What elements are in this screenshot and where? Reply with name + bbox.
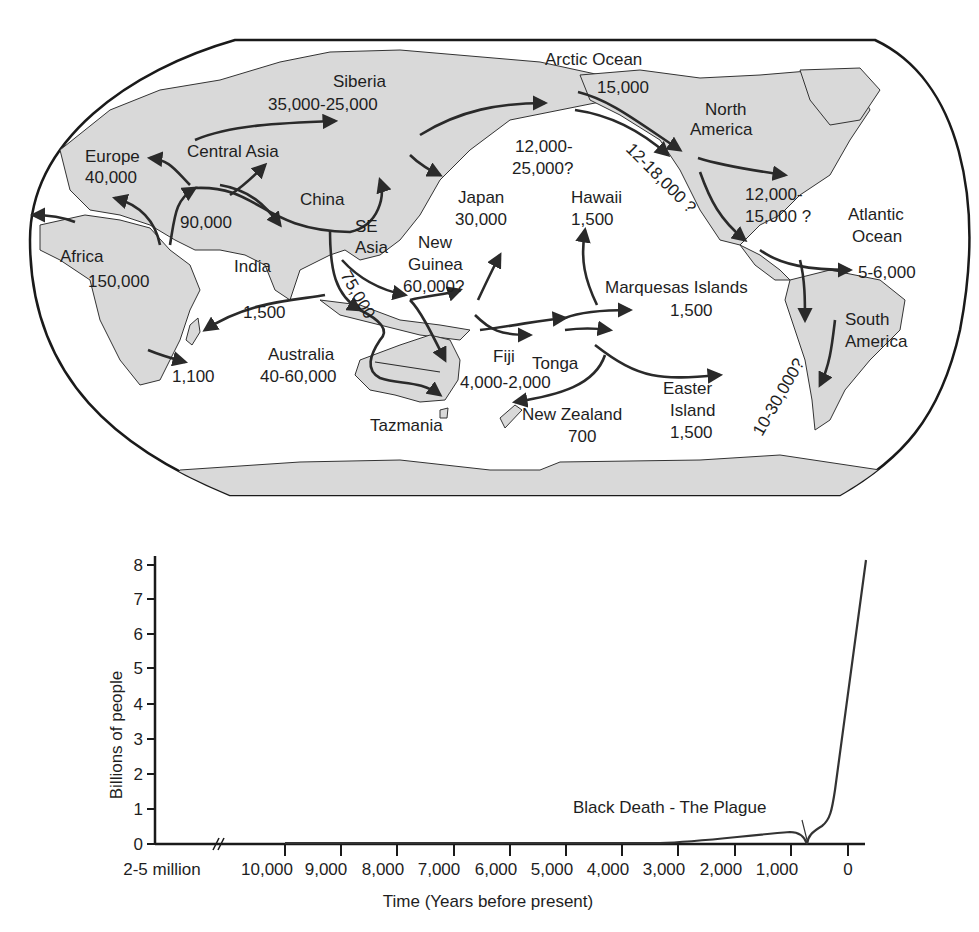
x-tick-8: 3,000 [643, 860, 686, 879]
label-bering-1: 12,000- [515, 137, 573, 156]
label-bering-2: 25,000? [512, 159, 573, 178]
x-tick-4: 7,000 [418, 860, 461, 879]
label-fiji: Fiji [493, 347, 515, 366]
label-hawaii-date: 1,500 [571, 210, 614, 229]
label-south-america-1: South [845, 310, 889, 329]
y-tick-8: 8 [134, 556, 143, 575]
label-africa-date: 150,000 [88, 272, 149, 291]
label-easter-1: Easter [663, 379, 712, 398]
label-hawaii: Hawaii [571, 188, 622, 207]
label-new-zealand-date: 700 [568, 427, 596, 446]
y-tick-3: 3 [134, 730, 143, 749]
label-new-guinea-2: Guinea [408, 255, 463, 274]
label-siberia: Siberia [333, 72, 386, 91]
x-tick-1: 10,000 [241, 860, 293, 879]
label-middle-east-date: 90,000 [180, 213, 232, 232]
label-easter-date: 1,500 [670, 423, 713, 442]
y-tick-6: 6 [134, 625, 143, 644]
label-north-america-1: North [705, 100, 747, 119]
x-tick-7: 4,000 [587, 860, 630, 879]
label-new-zealand: New Zealand [522, 405, 622, 424]
label-tazmania: Tazmania [370, 416, 443, 435]
y-axis-label: Billions of people [107, 671, 126, 800]
label-na-interior-2: 15,000 ? [745, 207, 811, 226]
label-india: India [234, 257, 271, 276]
label-na-interior-1: 12,000- [745, 185, 803, 204]
annotation-black-death: Black Death - The Plague [573, 798, 766, 817]
y-tick-7: 7 [134, 590, 143, 609]
label-fiji-tonga-date: 4,000-2,000 [460, 373, 551, 392]
x-tick-11: 0 [843, 860, 852, 879]
x-tick-6: 5,000 [531, 860, 574, 879]
x-tick-5: 6,000 [475, 860, 518, 879]
label-siberia-date: 35,000-25,000 [268, 95, 378, 114]
label-new-guinea-date: 60,000? [403, 277, 464, 296]
migration-map: Siberia 35,000-25,000 Arctic Ocean 15,00… [0, 0, 979, 510]
label-north-america-2: America [690, 120, 753, 139]
label-australia: Australia [268, 345, 335, 364]
label-australia-date: 40-60,000 [260, 367, 337, 386]
y-tick-0: 0 [134, 835, 143, 854]
label-arctic-ocean: Arctic Ocean [545, 50, 642, 69]
label-south-america-2: America [845, 332, 908, 351]
label-central-asia: Central Asia [187, 142, 279, 161]
label-china: China [300, 190, 345, 209]
label-arctic-date: 15,000 [597, 78, 649, 97]
label-atlantic-2: Ocean [852, 227, 902, 246]
label-se-asia-1: SE [355, 217, 378, 236]
label-europe: Europe [85, 147, 140, 166]
x-tick-3: 8,000 [362, 860, 405, 879]
label-europe-date: 40,000 [85, 168, 137, 187]
label-caribbean-date: 5-6,000 [858, 263, 916, 282]
y-tick-1: 1 [134, 800, 143, 819]
label-madagascar-route-date: 1,500 [243, 303, 286, 322]
label-tonga: Tonga [532, 354, 579, 373]
label-japan: Japan [458, 188, 504, 207]
label-madagascar-date: 1,100 [172, 367, 215, 386]
x-tick-0: 2-5 million [123, 860, 200, 879]
population-chart: Billions of people 0 1 2 3 4 5 6 7 8 [0, 540, 979, 932]
y-ticks: 0 1 2 3 4 5 6 7 8 [134, 556, 155, 854]
label-easter-2: Island [670, 401, 715, 420]
label-se-asia-2: Asia [355, 238, 389, 257]
y-tick-5: 5 [134, 659, 143, 678]
x-tick-2: 9,000 [305, 860, 348, 879]
x-tick-10: 1,000 [756, 860, 799, 879]
label-japan-date: 30,000 [455, 210, 507, 229]
y-tick-4: 4 [134, 695, 143, 714]
x-ticks: 2-5 million 10,000 9,000 8,000 7,000 6,0… [123, 844, 852, 879]
label-africa: Africa [60, 247, 104, 266]
label-marquesas: Marquesas Islands [605, 278, 748, 297]
label-atlantic-1: Atlantic [848, 205, 904, 224]
x-tick-9: 2,000 [700, 860, 743, 879]
x-axis-label: Time (Years before present) [383, 892, 593, 911]
y-tick-2: 2 [134, 765, 143, 784]
label-new-guinea-1: New [418, 233, 453, 252]
label-marquesas-date: 1,500 [670, 301, 713, 320]
